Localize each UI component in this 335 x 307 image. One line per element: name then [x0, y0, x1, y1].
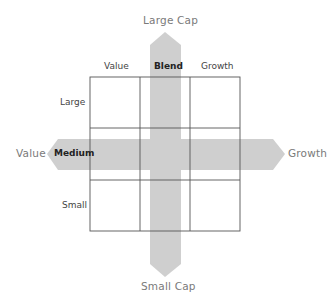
column-label-value: Value — [104, 61, 129, 71]
column-label-blend: Blend — [154, 61, 183, 71]
row-label-medium: Medium — [54, 148, 94, 158]
row-label-small: Small — [62, 200, 87, 210]
axis-label-top: Large Cap — [143, 14, 198, 26]
column-label-growth: Growth — [201, 61, 234, 71]
axis-label-right: Growth — [288, 147, 327, 159]
axis-label-left: Value — [16, 147, 46, 159]
row-label-large: Large — [60, 97, 85, 107]
style-box-graphic — [0, 0, 335, 307]
axis-label-bottom: Small Cap — [141, 280, 196, 292]
